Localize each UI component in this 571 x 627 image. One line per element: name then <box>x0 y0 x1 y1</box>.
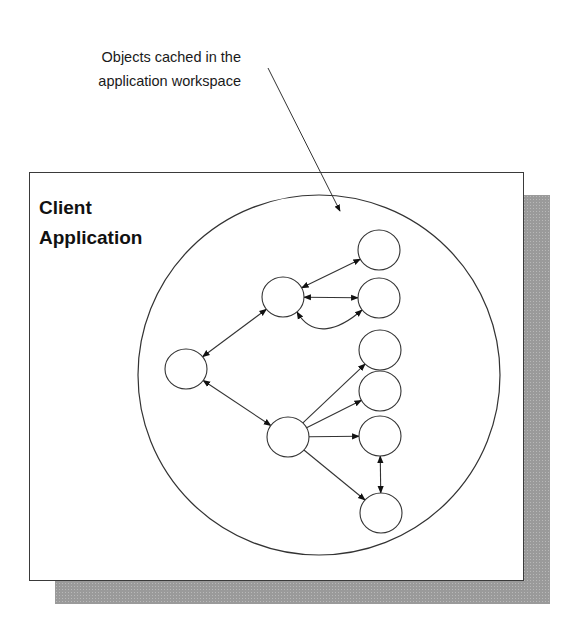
object-node-r4 <box>359 371 401 411</box>
cached-objects <box>165 230 402 533</box>
object-node-upper-mid <box>262 277 304 317</box>
object-node-r2 <box>358 278 400 318</box>
callout-pointer-arrow <box>268 68 340 211</box>
object-node-r5 <box>359 416 401 456</box>
object-node-r6 <box>360 493 402 533</box>
object-graph-diagram <box>0 0 571 627</box>
object-node-lower-mid <box>267 417 309 457</box>
object-node-r1 <box>358 230 400 270</box>
object-node-r3 <box>359 330 401 370</box>
object-node-root <box>165 349 207 389</box>
